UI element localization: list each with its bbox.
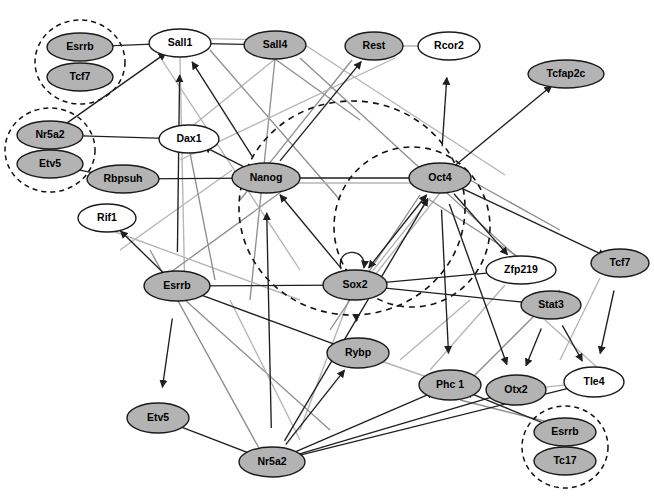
node-sall1[interactable]: Sall1: [149, 29, 211, 57]
node-tcfap2c[interactable]: Tcfap2c: [528, 60, 604, 88]
node-label-esrrb_br: Esrrb: [551, 425, 578, 437]
node-label-nr5a2_tl: Nr5a2: [35, 128, 64, 140]
node-label-sall4: Sall4: [263, 38, 288, 50]
node-tc17_br[interactable]: Tc17: [534, 447, 596, 475]
edge-nr5a2_b-to-otx2: [288, 395, 500, 458]
node-label-sall1: Sall1: [168, 36, 193, 48]
node-label-dax1: Dax1: [176, 132, 201, 144]
node-tcf7_r[interactable]: Tcf7: [591, 249, 649, 277]
node-nr5a2_tl[interactable]: Nr5a2: [17, 121, 83, 149]
node-label-esrrb_tl: Esrrb: [66, 40, 93, 52]
self-loop-layer: [340, 252, 364, 269]
node-nr5a2_b[interactable]: Nr5a2: [239, 447, 305, 477]
node-esrrb_br[interactable]: Esrrb: [534, 418, 596, 446]
edge-oct4-to-tcfap2c: [455, 86, 552, 166]
edge-stat3-to-otx2: [526, 329, 541, 366]
background-edge: [470, 180, 560, 230]
node-label-phc1: Phc 1: [436, 378, 464, 390]
node-label-rybp: Rybp: [345, 346, 371, 358]
node-label-etv5_tl: Etv5: [39, 157, 61, 169]
node-label-zfp219: Zfp219: [504, 263, 538, 275]
edge-stat3-to-sox2: [371, 287, 536, 304]
edge-sox2-to-oct4: [369, 195, 427, 268]
node-stat3[interactable]: Stat3: [521, 291, 581, 319]
node-tle4[interactable]: Tle4: [564, 367, 624, 397]
node-label-nanog: Nanog: [250, 171, 283, 183]
edge-nr5a2_b-to-rybp: [286, 370, 345, 445]
node-tcf7_tl[interactable]: Tcf7: [47, 63, 113, 91]
node-esrrb_tl[interactable]: Esrrb: [47, 33, 113, 61]
edge-stat3-to-tle4: [562, 325, 582, 361]
node-sox2[interactable]: Sox2: [323, 270, 387, 300]
node-label-tcfap2c: Tcfap2c: [547, 67, 586, 79]
edge-nr5a2_b-to-etv5_b: [174, 424, 257, 456]
node-zfp219[interactable]: Zfp219: [486, 256, 556, 284]
node-label-rif1: Rif1: [97, 211, 117, 223]
node-label-tle4: Tle4: [583, 375, 604, 387]
node-nanog[interactable]: Nanog: [232, 163, 300, 193]
node-rif1[interactable]: Rif1: [78, 204, 136, 232]
edge-zfp219-to-sox2: [371, 271, 506, 283]
edge-esrrb_l-to-sall1: [177, 75, 179, 252]
edge-oct4-to-phc1: [442, 210, 449, 353]
node-esrrb_l[interactable]: Esrrb: [144, 271, 210, 301]
node-label-sox2: Sox2: [342, 278, 367, 290]
network-diagram-figure: EsrrbTcf7Sall1Sall4RestRcor2Tcfap2cNr5a2…: [0, 0, 654, 499]
background-edge: [230, 300, 300, 440]
node-rybp[interactable]: Rybp: [327, 338, 389, 368]
network-graph-canvas: EsrrbTcf7Sall1Sall4RestRcor2Tcfap2cNr5a2…: [0, 0, 654, 499]
edge-esrrb_l-to-sox2: [193, 285, 339, 286]
background-edge: [190, 59, 275, 128]
node-label-tc17_br: Tc17: [553, 454, 576, 466]
background-edge: [400, 300, 470, 360]
edge-oct4-to-zfp219: [454, 194, 508, 255]
node-etv5_tl[interactable]: Etv5: [17, 150, 83, 178]
node-rcor2[interactable]: Rcor2: [418, 32, 480, 60]
background-edge: [185, 300, 330, 430]
node-label-otx2: Otx2: [504, 383, 528, 395]
node-rbpsuh[interactable]: Rbpsuh: [87, 165, 159, 193]
node-label-nr5a2_b: Nr5a2: [257, 455, 286, 467]
node-etv5_b[interactable]: Etv5: [127, 403, 189, 433]
background-edge: [160, 178, 300, 280]
edge-esrrb_l-to-rybp: [193, 292, 343, 347]
background-edge: [305, 45, 505, 175]
background-edge: [275, 59, 360, 120]
sox2-self-loop: [340, 252, 364, 269]
node-label-tcf7_r: Tcf7: [610, 256, 631, 268]
node-label-rbpsuh: Rbpsuh: [103, 172, 142, 184]
background-edge: [560, 278, 600, 360]
node-label-rest: Rest: [363, 39, 386, 51]
background-edge: [545, 320, 600, 370]
node-label-etv5_b: Etv5: [147, 411, 169, 423]
node-rest[interactable]: Rest: [345, 32, 403, 60]
node-oct4[interactable]: Oct4: [409, 163, 471, 193]
node-phc1[interactable]: Phc 1: [419, 370, 481, 400]
background-edge: [330, 195, 420, 330]
node-sall4[interactable]: Sall4: [244, 31, 306, 59]
edge-sox2-to-nanog: [280, 195, 341, 269]
edge-esrrb_l-to-rif1: [121, 231, 163, 272]
node-otx2[interactable]: Otx2: [486, 375, 546, 405]
node-label-rcor2: Rcor2: [434, 39, 464, 51]
node-label-oct4: Oct4: [428, 171, 452, 183]
edge-nr5a2_b-to-phc1: [288, 392, 435, 455]
node-label-stat3: Stat3: [538, 298, 564, 310]
node-label-tcf7_tl: Tcf7: [70, 70, 91, 82]
node-dax1[interactable]: Dax1: [159, 125, 219, 153]
edge-oct4-to-otx2: [449, 204, 507, 365]
node-label-esrrb_l: Esrrb: [163, 279, 190, 291]
edge-tcf7_r-to-tle4: [600, 291, 614, 354]
edge-esrrb_l-to-etv5_b: [162, 319, 172, 388]
